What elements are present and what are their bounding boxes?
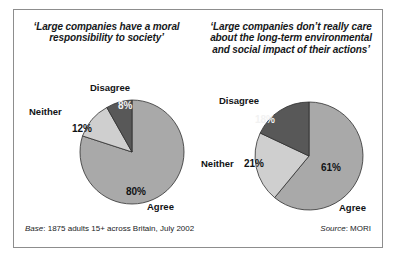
mori-pie-chart-figure: ‘Large companies have a moral responsibi… [13,9,383,248]
pie-label-disagree-left: Disagree [90,82,130,93]
footer-base-text: : 1875 adults 15+ across Britain, July 2… [43,224,194,233]
pie-value-neither-left: 12% [72,123,92,134]
footer-source-keyword: Source [320,224,345,233]
footer-base-keyword: Base [25,224,43,233]
chart-panel-long-term-impact: ‘Large companies don’t really care about… [199,10,383,210]
pie-label-agree-left: Agree [147,201,174,212]
chart-panel-moral-responsibility: ‘Large companies have a moral responsibi… [14,10,199,210]
pie-value-agree-right: 61% [321,162,341,173]
chart-title-right: ‘Large companies don’t really care about… [205,21,377,55]
footer-source-note: Source: MORI [320,224,371,233]
pie-value-neither-right: 21% [244,158,264,169]
pie-label-neither-right: Neither [201,158,234,169]
pie-value-agree-left: 80% [126,186,146,197]
figure-footer: Base: 1875 adults 15+ across Britain, Ju… [14,224,382,238]
pie-label-disagree-right: Disagree [219,95,259,106]
footer-base-note: Base: 1875 adults 15+ across Britain, Ju… [25,224,194,233]
pie-value-disagree-left: 8% [118,100,132,111]
pie-value-disagree-right: 18% [255,114,275,125]
pie-label-neither-left: Neither [29,106,62,117]
chart-title-left: ‘Large companies have a moral responsibi… [20,21,193,44]
pie-label-agree-right: Agree [339,202,366,213]
footer-source-text: : MORI [346,224,371,233]
